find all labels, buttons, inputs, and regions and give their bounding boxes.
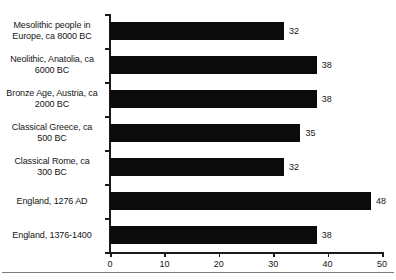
category-label-line: 500 BC — [0, 133, 104, 144]
bar — [110, 192, 371, 210]
bar — [110, 226, 317, 244]
category-label: Mesolithic people inEurope, ca 8000 BC — [0, 20, 104, 42]
footer-rule — [2, 272, 394, 273]
category-label-line: 2000 BC — [0, 99, 104, 110]
y-axis-tick — [105, 82, 110, 84]
y-axis-tick — [105, 14, 110, 16]
bar-value-label: 48 — [376, 196, 386, 206]
y-axis-tick — [105, 150, 110, 152]
x-axis-tick — [219, 252, 221, 257]
category-labels: Mesolithic people inEurope, ca 8000 BCNe… — [0, 14, 108, 252]
bar — [110, 124, 300, 142]
bar-value-label: 32 — [289, 26, 299, 36]
category-label-line: Classical Greece, ca — [0, 122, 104, 133]
category-label-line: Classical Rome, ca — [0, 156, 104, 167]
x-axis-tick — [273, 252, 275, 257]
x-axis-tick — [382, 252, 384, 257]
x-axis-tick-label: 30 — [268, 259, 278, 269]
category-label: Bronze Age, Austria, ca2000 BC — [0, 88, 104, 110]
category-label-line: 6000 BC — [0, 65, 104, 76]
y-axis-tick — [105, 48, 110, 50]
category-label-line: Bronze Age, Austria, ca — [0, 88, 104, 99]
y-axis-tick — [105, 184, 110, 186]
bar-value-label: 35 — [305, 128, 315, 138]
x-axis-line — [109, 252, 382, 254]
chart-plot-region: Mesolithic people inEurope, ca 8000 BCNe… — [0, 0, 396, 262]
category-label-line: England, 1276 AD — [0, 196, 104, 207]
x-axis-tick-label: 0 — [107, 259, 112, 269]
category-label: Neolithic, Anatolia, ca6000 BC — [0, 54, 104, 76]
bar — [110, 56, 317, 74]
x-axis-tick — [164, 252, 166, 257]
bar — [110, 158, 284, 176]
y-axis-tick — [105, 218, 110, 220]
bar-value-label: 38 — [322, 230, 332, 240]
bar-value-label: 38 — [322, 60, 332, 70]
category-label-line: Neolithic, Anatolia, ca — [0, 54, 104, 65]
x-axis-tick — [110, 252, 112, 257]
bar-chart: Mesolithic people inEurope, ca 8000 BCNe… — [0, 0, 396, 280]
bar-value-label: 38 — [322, 94, 332, 104]
category-label-line: 300 BC — [0, 167, 104, 178]
x-axis-tick-label: 50 — [377, 259, 387, 269]
category-label: Classical Greece, ca500 BC — [0, 122, 104, 144]
category-label-line: Mesolithic people in — [0, 20, 104, 31]
bar — [110, 90, 317, 108]
bar — [110, 22, 284, 40]
category-label: England, 1276 AD — [0, 196, 104, 207]
x-axis-tick-label: 40 — [323, 259, 333, 269]
x-axis-tick — [328, 252, 330, 257]
x-axis-tick-label: 20 — [214, 259, 224, 269]
x-axis-tick-label: 10 — [159, 259, 169, 269]
category-label-line: Europe, ca 8000 BC — [0, 31, 104, 42]
category-label: England, 1376-1400 — [0, 230, 104, 241]
y-axis-tick — [105, 116, 110, 118]
bar-value-label: 32 — [289, 162, 299, 172]
category-label: Classical Rome, ca300 BC — [0, 156, 104, 178]
category-label-line: England, 1376-1400 — [0, 230, 104, 241]
plot-area: 01020304050 32383835324838 — [110, 14, 382, 252]
